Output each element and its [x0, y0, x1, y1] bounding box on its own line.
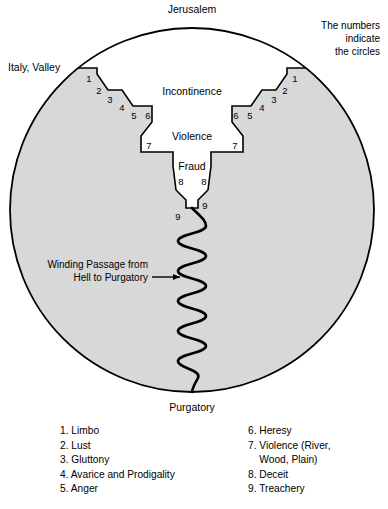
inferno-diagram: Jerusalem Italy, Valley The numbers indi…: [0, 0, 388, 509]
legend-left-column: 1. Limbo 2. Lust 3. Gluttony 4. Avarice …: [60, 424, 250, 497]
label-purgatory: Purgatory: [169, 401, 215, 413]
circle-number-left-6: 6: [145, 110, 150, 121]
circle-number-left-2: 2: [96, 85, 101, 96]
label-incontinence: Incontinence: [162, 85, 222, 97]
legend: 1. Limbo 2. Lust 3. Gluttony 4. Avarice …: [0, 424, 388, 509]
earth-cross-section-figure: Jerusalem Italy, Valley The numbers indi…: [0, 0, 388, 420]
note-line-1: The numbers: [321, 20, 380, 31]
circle-number-left-4: 4: [119, 102, 124, 113]
legend-item: 1. Limbo: [60, 424, 250, 439]
legend-item: 6. Heresy: [248, 424, 380, 439]
violence-number-right: 7: [232, 140, 237, 151]
passage-label-line-2: Hell to Purgatory: [74, 272, 148, 283]
circle-number-right-1: 1: [292, 73, 297, 84]
fraud-number-left: 8: [178, 176, 183, 187]
treachery-number-left: 9: [175, 211, 180, 222]
label-violence: Violence: [172, 130, 212, 142]
circle-number-left-5: 5: [131, 110, 136, 121]
legend-item: 2. Lust: [60, 439, 250, 454]
label-italy-valley: Italy, Valley: [8, 61, 61, 73]
legend-item: 9. Treachery: [248, 482, 380, 497]
passage-label-line-1: Winding Passage from: [47, 259, 148, 270]
label-fraud: Fraud: [178, 160, 206, 172]
circle-number-left-1: 1: [86, 73, 91, 84]
circle-number-left-3: 3: [107, 94, 112, 105]
label-jerusalem: Jerusalem: [168, 3, 217, 15]
legend-item: 4. Avarice and Prodigality: [60, 468, 250, 483]
legend-item: 7. Violence (River, Wood, Plain): [248, 439, 380, 468]
note-line-3: the circles: [335, 46, 380, 57]
circle-number-right-4: 4: [259, 102, 264, 113]
circle-number-right-6: 6: [233, 110, 238, 121]
legend-right-column: 6. Heresy 7. Violence (River, Wood, Plai…: [248, 424, 380, 497]
legend-item: 8. Deceit: [248, 468, 380, 483]
note-line-2: indicate: [346, 33, 381, 44]
circle-number-right-2: 2: [282, 85, 287, 96]
fraud-number-right: 8: [201, 176, 206, 187]
treachery-number-right: 9: [202, 200, 207, 211]
legend-item: 5. Anger: [60, 482, 250, 497]
legend-item: 3. Gluttony: [60, 453, 250, 468]
violence-number-left: 7: [146, 140, 151, 151]
circle-number-right-5: 5: [247, 110, 252, 121]
circle-number-right-3: 3: [271, 94, 276, 105]
